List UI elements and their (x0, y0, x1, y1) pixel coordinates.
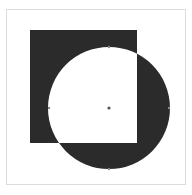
center-point[interactable] (107, 106, 110, 109)
anchor-point-left[interactable] (48, 107, 50, 109)
anchor-point-top[interactable] (108, 46, 110, 48)
square-circle-xor-shape[interactable] (30, 30, 170, 169)
xor-shape-diagram (0, 0, 192, 195)
anchor-point-right[interactable] (168, 107, 170, 109)
anchor-point-bottom[interactable] (108, 168, 110, 170)
